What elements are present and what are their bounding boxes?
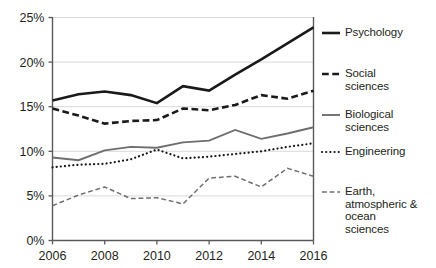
x-tick-label-2016: 2016 [300, 249, 328, 263]
y-tick-label-20: 20% [19, 56, 44, 70]
y-tick-label-10: 10% [19, 145, 44, 159]
gridlines [53, 18, 314, 196]
line-chart: 0%5%10%15%20%25% 20062008201020122014201… [0, 0, 436, 268]
series-lines [53, 27, 314, 205]
legend-item-label-0: Psychology [345, 26, 403, 39]
y-tick-label-0: 0% [26, 234, 44, 248]
series-line-2 [53, 127, 314, 160]
x-tick-label-2008: 2008 [91, 249, 119, 263]
legend-item-label-3: Engineering [345, 145, 405, 158]
y-tick-label-5: 5% [26, 189, 44, 203]
x-axis-tick-labels: 200620082010201220142016 [39, 249, 328, 263]
legend-item-label-4: Earth, atmospheric & ocean sciences [345, 185, 417, 235]
x-tick-label-2012: 2012 [195, 249, 223, 263]
legend-item-label-2: Biological sciences [345, 108, 393, 133]
y-tick-label-25: 25% [19, 11, 44, 25]
series-line-0 [53, 27, 314, 103]
legend-item-label-1: Social sciences [345, 67, 389, 92]
y-axis-tick-labels: 0%5%10%15%20%25% [19, 11, 44, 248]
series-line-4 [53, 168, 314, 205]
y-tick-label-15: 15% [19, 100, 44, 114]
legend-swatches [322, 33, 340, 192]
x-tick-label-2006: 2006 [39, 249, 67, 263]
x-tick-label-2010: 2010 [143, 249, 171, 263]
x-tick-label-2014: 2014 [247, 249, 275, 263]
